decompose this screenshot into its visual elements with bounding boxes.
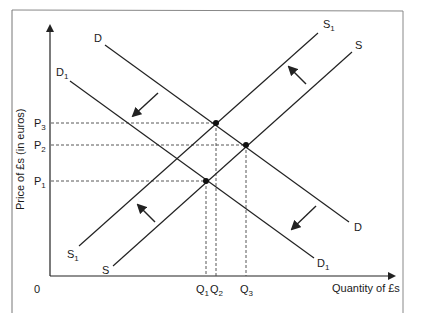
price-label-p2: P2 bbox=[34, 139, 46, 154]
demand-shift-arrow-lower bbox=[292, 206, 316, 229]
supply-demand-diagram: D D D1 D1 S1 S1 S S P3 P2 P1 Q1 Q2 Q3 0 … bbox=[0, 0, 421, 313]
quantity-label-q1: Q1 bbox=[196, 283, 210, 298]
supply-shift-arrow-lower bbox=[138, 205, 155, 222]
curve-label-S1-top: S1 bbox=[323, 18, 335, 33]
y-axis-label: Price of £s (in euros) bbox=[14, 109, 26, 210]
curve-label-D-bottom: D bbox=[354, 221, 362, 233]
curve-label-D-top: D bbox=[94, 32, 102, 44]
equilibrium-point-p1q1 bbox=[203, 178, 209, 184]
price-label-p1: P1 bbox=[34, 175, 46, 190]
supply-curve-S1 bbox=[79, 33, 318, 246]
x-axis-label: Quantity of £s bbox=[332, 282, 400, 294]
demand-shift-arrow-upper bbox=[133, 93, 158, 116]
equilibrium-point-p2q3 bbox=[243, 142, 249, 148]
curve-label-D1-bottom: D1 bbox=[317, 257, 330, 272]
curve-label-S-top: S bbox=[355, 39, 362, 51]
origin-label: 0 bbox=[34, 283, 40, 295]
supply-shift-arrow-upper bbox=[289, 67, 306, 84]
curves bbox=[70, 33, 352, 266]
curve-label-S-bottom: S bbox=[102, 264, 109, 276]
frame bbox=[12, 10, 403, 313]
quantity-label-q2: Q2 bbox=[210, 283, 224, 298]
quantity-label-q3: Q3 bbox=[240, 283, 254, 298]
price-label-p3: P3 bbox=[34, 117, 46, 132]
equilibrium-point-p3q2 bbox=[213, 120, 219, 126]
guide-lines bbox=[51, 123, 246, 276]
curve-label-S1-bottom: S1 bbox=[67, 248, 79, 263]
curve-label-D1-top: D1 bbox=[56, 66, 69, 81]
shift-arrows bbox=[133, 67, 316, 229]
supply-curve-S bbox=[113, 52, 352, 266]
